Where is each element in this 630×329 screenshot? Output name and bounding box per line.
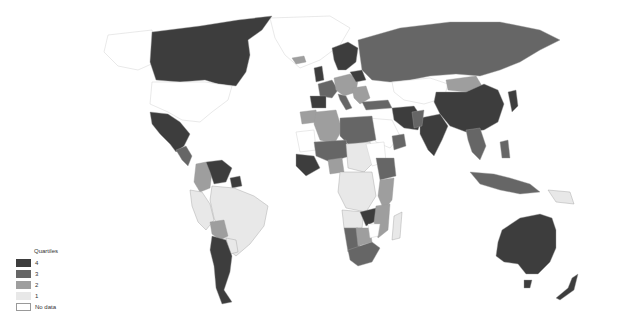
- region-indonesia: [470, 172, 540, 194]
- region-new-zealand: [556, 274, 578, 300]
- world-choropleth-map: [0, 0, 630, 329]
- legend-item-q4: 4: [16, 257, 86, 268]
- legend-item-q1: 1: [16, 290, 86, 301]
- region-mauritania: [296, 130, 316, 152]
- legend-title: Quartiles: [34, 248, 86, 254]
- legend-label-no-data: No data: [35, 304, 56, 310]
- region-italy: [338, 94, 352, 110]
- map-legend: Quartiles 4 3 2 1 No data: [16, 248, 86, 312]
- region-balkans: [352, 86, 370, 104]
- legend-label-q1: 1: [35, 293, 38, 299]
- region-southeast-asia: [466, 128, 486, 160]
- legend-swatch-q2: [16, 281, 31, 289]
- region-turkey: [362, 100, 392, 110]
- legend-item-q2: 2: [16, 279, 86, 290]
- legend-swatch-no-data: [16, 303, 31, 311]
- region-philippines: [500, 140, 510, 158]
- region-spain: [310, 96, 326, 108]
- region-tasmania: [524, 280, 532, 288]
- region-central-america: [176, 146, 192, 166]
- region-united-kingdom: [314, 66, 324, 82]
- region-drc: [338, 172, 376, 212]
- region-russia: [358, 22, 560, 82]
- legend-item-q3: 3: [16, 268, 86, 279]
- legend-label-q4: 4: [35, 260, 38, 266]
- region-pakistan: [412, 110, 424, 128]
- legend-item-no-data: No data: [16, 301, 86, 312]
- region-algeria: [314, 110, 342, 144]
- region-guianas: [230, 176, 242, 188]
- region-india: [420, 114, 448, 156]
- region-mali-niger: [314, 140, 350, 162]
- legend-swatch-q3: [16, 270, 31, 278]
- legend-swatch-q4: [16, 259, 31, 267]
- region-west-africa-coast: [296, 154, 320, 176]
- region-oman: [392, 134, 406, 150]
- region-alaska: [104, 30, 156, 70]
- region-madagascar: [392, 212, 402, 240]
- region-nigeria: [328, 158, 344, 174]
- region-canada: [150, 16, 272, 86]
- legend-label-q3: 3: [35, 271, 38, 277]
- legend-swatch-q1: [16, 292, 31, 300]
- region-ethiopia: [376, 158, 396, 180]
- region-japan: [508, 90, 518, 112]
- region-zimbabwe: [368, 224, 380, 238]
- region-australia: [496, 214, 556, 274]
- region-papua-new-guinea: [548, 190, 574, 204]
- legend-label-q2: 2: [35, 282, 38, 288]
